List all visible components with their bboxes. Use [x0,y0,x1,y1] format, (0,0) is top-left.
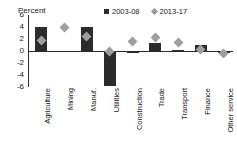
x-tick-label: Construction [136,88,144,130]
y-tick-label: 0 [20,47,24,55]
chart-bar [127,51,139,53]
y-tick-label: 2 [20,35,24,43]
chart-bar [172,50,184,52]
chart-bar [149,43,161,51]
y-axis-tick-labels: 6420-2-4-6 [0,15,26,87]
chart-container: Percent 2003-08 2013-17 6420-2-4-6 Agric… [0,0,237,153]
x-tick-label: Other service [227,88,235,133]
x-tick-label: Trade [158,88,166,107]
plot-area [28,15,233,87]
y-tick-label: 6 [20,11,24,19]
x-tick-label: Utilities [113,88,121,112]
x-tick-label: Transport [181,88,189,120]
chart-category-group [144,15,167,87]
chart-category-group [30,15,53,87]
square-dark-icon [104,9,109,14]
x-tick-label: Agriculture [44,88,52,124]
diamond-gray-icon [150,8,157,15]
y-tick-label: -4 [17,71,24,79]
y-tick-label: -2 [17,59,24,67]
y-tick-label: -6 [17,83,24,91]
x-axis-category-labels: AgricultureMiningManuf.UtilitiesConstruc… [28,88,233,152]
x-tick-label: Manuf. [90,88,98,111]
y-tick-label: 4 [20,23,24,31]
x-tick-label: Mining [67,88,75,110]
x-tick-label: Finance [204,88,212,115]
chart-category-group [76,15,99,87]
